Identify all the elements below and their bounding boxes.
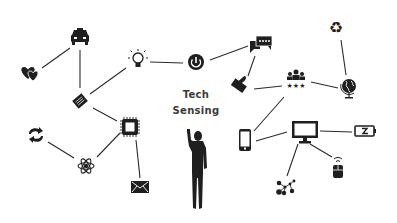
group-rating-icon: ★★★	[287, 70, 306, 91]
sync-icon	[29, 127, 43, 143]
battery-icon	[355, 126, 376, 136]
edge-taxi-hearts	[42, 48, 70, 68]
mail-icon	[131, 181, 149, 193]
edge-chat-thumbs	[248, 56, 255, 76]
smartphone-icon	[239, 129, 251, 151]
atom-icon	[78, 157, 94, 174]
tech-sensing-diagram: ★★★ ♻	[0, 0, 397, 223]
lightbulb-icon	[128, 49, 148, 67]
edge-power-chat	[210, 46, 248, 60]
book-icon	[72, 93, 88, 108]
edge-monitor-mouse	[310, 144, 332, 157]
edge-phone-monitor	[256, 132, 287, 141]
edge-chip-mail	[136, 140, 140, 178]
wireless-mouse-icon	[333, 157, 343, 178]
svg-text:♻: ♻	[329, 18, 343, 37]
edge-thumbs-group	[254, 86, 282, 89]
edge-group-phone	[254, 97, 284, 131]
edge-group-globe	[311, 82, 338, 88]
globe-icon	[341, 79, 356, 99]
edge-book-chip	[93, 108, 117, 121]
edge-chip-atom	[97, 133, 120, 157]
title-line-1: Tech	[166, 89, 226, 100]
edge-monitor-battery	[320, 131, 352, 132]
taxi-icon	[71, 28, 89, 45]
edge-lightbulb-power	[150, 62, 183, 63]
hearts-icon	[21, 67, 38, 81]
person-silhouette	[187, 129, 207, 209]
edge-sync-atom	[48, 142, 74, 158]
edge-recycle-globe	[341, 40, 346, 75]
power-icon	[188, 54, 204, 70]
recycle-icon: ♻	[329, 18, 343, 37]
title-line-2: Sensing	[166, 105, 226, 116]
monitor-icon	[292, 121, 318, 144]
network-icon	[276, 180, 295, 196]
chip-icon	[120, 117, 140, 137]
chat-icon	[250, 36, 272, 53]
edge-book-lightbulb	[90, 68, 126, 94]
svg-text:★★★: ★★★	[287, 82, 306, 90]
edge-monitor-network	[287, 144, 298, 176]
